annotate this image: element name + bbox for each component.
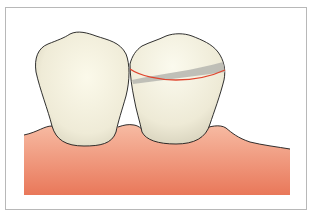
dental-illustration [0,0,312,214]
